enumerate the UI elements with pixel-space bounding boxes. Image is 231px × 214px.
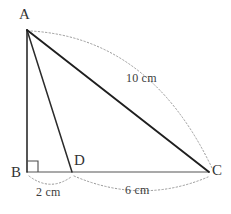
segment-ac	[27, 30, 209, 172]
vertex-label-d: D	[74, 153, 85, 168]
vertex-label-c: C	[212, 163, 222, 178]
segment-ad	[27, 30, 72, 172]
measure-label-ac: 10 cm	[126, 72, 157, 84]
vertex-label-a: A	[19, 7, 30, 22]
vertex-label-b: B	[11, 165, 21, 180]
measure-label-dc: 6 cm	[125, 184, 149, 196]
measure-arc-ac	[31, 31, 212, 168]
right-angle-marker-b	[27, 161, 38, 172]
measure-label-bd: 2 cm	[36, 186, 60, 198]
geometry-canvas	[0, 0, 231, 214]
geometry-figure: A B D C 10 cm 2 cm 6 cm	[0, 0, 231, 214]
measure-arc-bd	[29, 176, 71, 184]
